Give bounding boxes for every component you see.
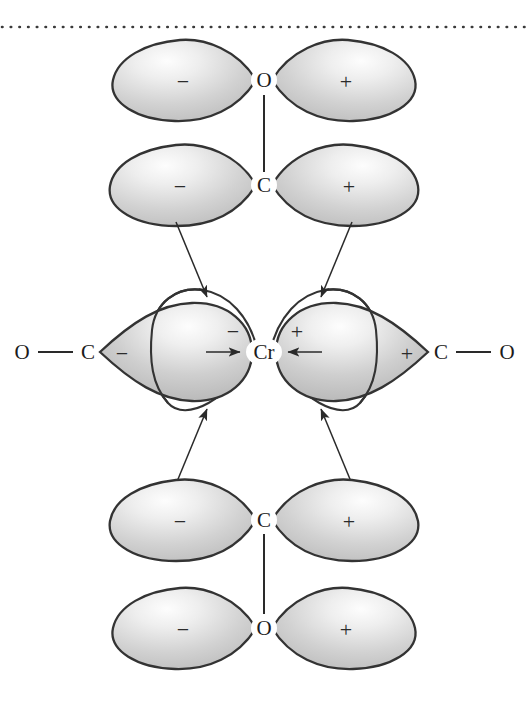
orbital-diagram-canvas: O − + C − + bbox=[0, 0, 529, 702]
lower-carbon-plus-sign: + bbox=[343, 509, 355, 534]
arrow-upper-left-donation bbox=[176, 222, 207, 297]
left-carbonyl-minus-sign: − bbox=[116, 341, 128, 366]
right-carbon-atom-label: C bbox=[434, 340, 448, 364]
arrow-upper-right-donation bbox=[321, 222, 352, 297]
top-oxygen-atom-label: O bbox=[256, 68, 271, 92]
metal-d-minus-sign: − bbox=[227, 319, 239, 344]
upper-carbon-plus-sign: + bbox=[343, 174, 355, 199]
lower-carbon-minus-sign: − bbox=[174, 509, 186, 534]
bottom-oxygen-plus-sign: + bbox=[340, 617, 352, 642]
upper-carbon-minus-sign: − bbox=[174, 174, 186, 199]
lower-carbon-atom-label: C bbox=[257, 508, 271, 532]
left-carbon-atom-label: C bbox=[81, 340, 95, 364]
orbital-diagram-figure: O − + C − + bbox=[0, 0, 529, 702]
arrow-lower-right-donation bbox=[321, 409, 352, 484]
bottom-oxygen-atom-label: O bbox=[256, 616, 271, 640]
upper-carbon-atom-label: C bbox=[257, 173, 271, 197]
bottom-oxygen-minus-sign: − bbox=[177, 617, 189, 642]
top-oxygen-plus-sign: + bbox=[340, 69, 352, 94]
left-oxygen-atom-label: O bbox=[14, 340, 29, 364]
metal-d-plus-sign: + bbox=[291, 319, 303, 344]
metal-atom-label: Cr bbox=[254, 340, 275, 364]
right-oxygen-atom-label: O bbox=[499, 340, 514, 364]
top-oxygen-minus-sign: − bbox=[177, 69, 189, 94]
arrow-lower-left-donation bbox=[176, 409, 207, 484]
right-carbonyl-plus-sign: + bbox=[401, 341, 413, 366]
